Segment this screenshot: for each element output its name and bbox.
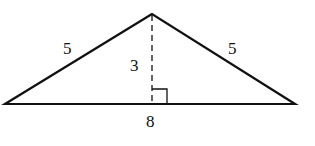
triangle-outline <box>5 14 295 104</box>
right-side-label: 5 <box>228 39 237 58</box>
left-side-label: 5 <box>63 39 72 58</box>
base-label: 8 <box>146 112 155 131</box>
height-label: 3 <box>130 56 139 75</box>
triangle-diagram: 5 5 3 8 <box>0 0 315 146</box>
right-angle-marker <box>152 89 167 104</box>
